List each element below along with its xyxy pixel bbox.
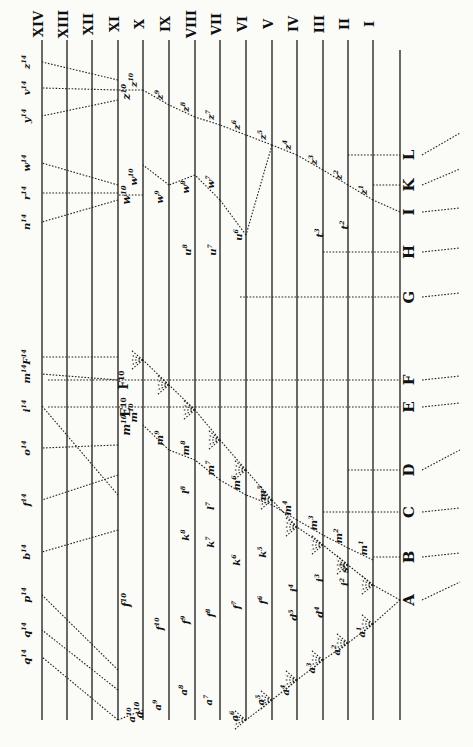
- descendant-line: [42, 100, 118, 116]
- species-z: z6: [230, 119, 242, 131]
- fan-line: [311, 655, 323, 660]
- species-u: u8: [181, 244, 193, 256]
- species-u: u6: [232, 229, 244, 241]
- fan-line: [131, 360, 143, 370]
- species-f: f6: [256, 595, 268, 605]
- extinct-stub: [422, 582, 460, 600]
- species-z: z3: [307, 154, 319, 166]
- descendant-line: [42, 374, 118, 380]
- species-f: f7: [230, 600, 242, 610]
- species-z: z4: [281, 140, 293, 151]
- darwin-divergence-diagram: XIVXIIIXIIXIXIXVIIIVIIVIVIVIIIIIIABCDEFG…: [0, 0, 473, 747]
- descendant-line: [42, 88, 118, 90]
- generation-label: X: [132, 18, 147, 29]
- generation-label: XIV: [31, 10, 46, 37]
- fan-line: [208, 440, 220, 450]
- fan-line: [260, 690, 272, 700]
- species-a: a7: [202, 694, 214, 705]
- species-m: m5: [256, 486, 268, 501]
- a-lower: [373, 600, 400, 624]
- fan-line: [208, 435, 220, 440]
- generation-label: V: [261, 18, 276, 30]
- species-w: w8: [179, 180, 191, 194]
- species-gen14: f14: [20, 494, 32, 508]
- descendant-line: [42, 475, 118, 500]
- species-z: z5: [256, 130, 268, 141]
- fan-line: [285, 527, 297, 537]
- extinct-stub: [422, 208, 460, 212]
- species-w: w10: [127, 168, 139, 186]
- fan-line: [183, 400, 195, 410]
- species-m: m3: [307, 515, 319, 531]
- species-a: a3: [305, 662, 317, 673]
- species-k: k6: [230, 554, 242, 566]
- extinct-stub: [422, 376, 460, 380]
- extinct-stub: [422, 403, 460, 407]
- generation-label: VIII: [184, 10, 199, 39]
- species-z: z8: [179, 101, 191, 113]
- species-gen14: q14: [20, 649, 32, 665]
- fan-line: [285, 522, 297, 527]
- fan-line: [285, 670, 297, 680]
- species-k: k8: [179, 529, 191, 541]
- species-gen14: w14: [20, 154, 32, 171]
- fan-line: [361, 585, 373, 595]
- species-m: m2: [332, 528, 344, 544]
- species-m: m4: [281, 501, 293, 516]
- descendant-line: [42, 657, 118, 720]
- species-a: a2: [330, 644, 342, 655]
- species-m: m6: [230, 475, 242, 491]
- species-k: k7: [204, 536, 216, 548]
- ancestral-species-I: I: [400, 208, 418, 215]
- fan-line: [157, 385, 169, 395]
- extinct-stub: [422, 293, 460, 297]
- species-gen14: F14: [20, 349, 32, 366]
- ancestral-species-B: B: [400, 551, 418, 564]
- species-z: z1: [357, 185, 369, 196]
- species-m: m7: [204, 460, 216, 476]
- species-z: z2: [332, 169, 344, 181]
- species-l: l7: [204, 501, 216, 510]
- ancestral-species-E: E: [400, 401, 418, 412]
- generation-label: XI: [107, 16, 122, 32]
- fan-line: [157, 380, 169, 385]
- fan-line: [157, 385, 169, 390]
- a-branch: [143, 360, 169, 385]
- ancestral-species-H: H: [400, 245, 418, 259]
- species-gen14: r14: [20, 186, 32, 200]
- generation-label: IV: [286, 15, 301, 32]
- species-f: f10: [153, 617, 165, 632]
- fan-line: [234, 470, 246, 475]
- species-gen14: v14: [20, 81, 32, 95]
- fan-line: [336, 638, 348, 643]
- species-gen14: o14: [20, 440, 32, 455]
- fan-line: [183, 410, 195, 415]
- fan-line: [361, 575, 373, 585]
- species-m: m1: [357, 541, 369, 556]
- generation-label: II: [337, 18, 352, 30]
- descendant-line: [42, 163, 118, 185]
- z-root: [373, 200, 400, 212]
- fan-line: [311, 535, 323, 545]
- descendant-line: [42, 445, 118, 448]
- fan-line: [234, 460, 246, 470]
- ancestral-species-C: C: [400, 506, 418, 518]
- fan-line: [361, 585, 373, 590]
- descendant-line: [42, 530, 118, 552]
- ancestral-species-K: K: [400, 178, 418, 192]
- fan-line: [131, 360, 143, 365]
- species-a: a6: [228, 710, 240, 721]
- species-z: z7: [204, 109, 216, 121]
- fan-line: [234, 465, 246, 470]
- extinct-stub: [422, 133, 460, 155]
- fan-line: [311, 545, 323, 555]
- a-branch: [169, 385, 195, 410]
- species-f10: f10: [120, 593, 133, 608]
- species-u: u7: [206, 244, 218, 256]
- species-a: a5: [254, 695, 266, 706]
- species-gen14: y14: [20, 109, 32, 124]
- fan-line: [285, 517, 297, 527]
- branch-line: [246, 145, 272, 235]
- ancestral-species-F: F: [400, 374, 418, 385]
- species-m: m9: [153, 430, 165, 446]
